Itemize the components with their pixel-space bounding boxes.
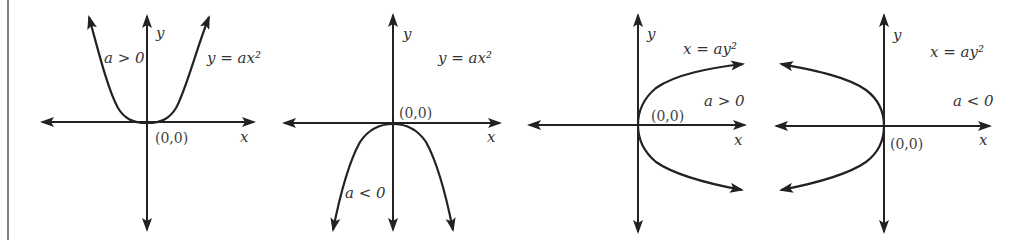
origin-label: (0,0) xyxy=(399,105,432,121)
y-axis-label: y xyxy=(892,26,902,44)
parabola-figure: y x a > 0 y = ax² (0,0) y x y = ax² a < … xyxy=(0,0,1018,243)
x-axis-label: x xyxy=(487,128,496,146)
panel-downward-parabola: y x y = ax² a < 0 (0,0) xyxy=(284,15,500,230)
parabola-upper-branch xyxy=(781,64,884,126)
condition-label: a < 0 xyxy=(345,184,386,202)
parabola-left-branch xyxy=(333,124,393,230)
y-axis-label: y xyxy=(155,24,165,42)
condition-label: a < 0 xyxy=(953,92,994,110)
y-axis-label: y xyxy=(402,25,412,43)
parabola-lower-branch xyxy=(781,126,884,190)
equation-label: x = ay² xyxy=(683,40,737,58)
parabola-right-branch xyxy=(393,124,453,230)
parabola-lower-branch xyxy=(638,125,742,190)
parabola-left-branch xyxy=(89,17,147,123)
origin-label: (0,0) xyxy=(651,108,684,124)
condition-label: a > 0 xyxy=(704,92,745,110)
x-axis-label: x xyxy=(979,131,988,149)
x-axis-label: x xyxy=(734,131,743,149)
origin-label: (0,0) xyxy=(155,130,188,146)
equation-label: y = ax² xyxy=(437,49,492,67)
origin-label: (0,0) xyxy=(890,136,923,152)
x-axis-label: x xyxy=(240,128,249,146)
panel-rightward-parabola: y x x = ay² a > 0 (0,0) xyxy=(529,15,745,232)
condition-label: a > 0 xyxy=(104,49,145,67)
panel-upward-parabola: y x a > 0 y = ax² (0,0) xyxy=(42,16,261,230)
equation-label: x = ay² xyxy=(930,43,984,61)
panel-leftward-parabola: y x x = ay² a < 0 (0,0) xyxy=(776,15,994,232)
y-axis-label: y xyxy=(646,25,656,43)
equation-label: y = ax² xyxy=(206,49,261,67)
